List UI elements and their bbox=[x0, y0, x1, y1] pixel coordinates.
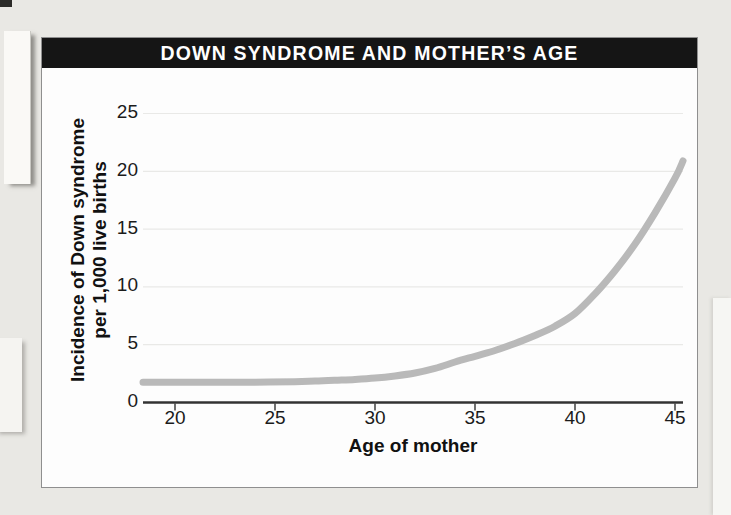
incidence-curve bbox=[143, 161, 683, 382]
x-tick-label: 25 bbox=[264, 407, 285, 428]
book-page-photo: DOWN SYNDROME AND MOTHER’S AGE 202530354… bbox=[0, 0, 731, 515]
x-tick-label: 35 bbox=[464, 407, 485, 428]
y-tick-label: 0 bbox=[127, 390, 138, 411]
y-tick-label: 20 bbox=[117, 159, 138, 180]
y-axis-title-line2: per 1,000 live births bbox=[89, 161, 110, 338]
x-tick-label: 30 bbox=[364, 407, 385, 428]
x-tick-label: 20 bbox=[164, 407, 185, 428]
y-axis-title-line1: Incidence of Down syndrome bbox=[67, 118, 88, 382]
x-axis-title: Age of mother bbox=[349, 435, 478, 456]
x-tick-label: 40 bbox=[564, 407, 585, 428]
y-tick-label: 15 bbox=[117, 217, 138, 238]
down-syndrome-age-chart: 2025303540450510152025Age of motherIncid… bbox=[0, 0, 731, 515]
y-tick-label: 25 bbox=[117, 101, 138, 122]
y-tick-label: 5 bbox=[127, 332, 138, 353]
y-tick-label: 10 bbox=[117, 274, 138, 295]
x-tick-label: 45 bbox=[664, 407, 685, 428]
